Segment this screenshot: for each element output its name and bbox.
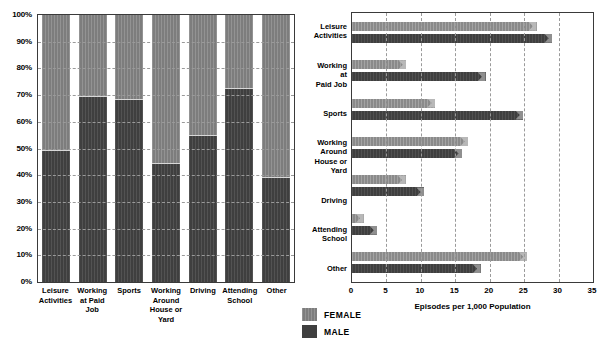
bar-male-track: [352, 187, 593, 196]
bar-female-body: [352, 22, 537, 31]
left-gridline: [38, 122, 294, 123]
left-x-label-line: Working: [74, 286, 111, 296]
left-x-label: Sports: [111, 286, 148, 324]
stacked-segment-male: [42, 151, 70, 282]
right-gridline: [490, 13, 491, 282]
left-y-tick: 50%: [17, 143, 32, 152]
stacked-segment-female: [189, 15, 217, 135]
left-gridline: [38, 95, 294, 96]
right-category-label: Other: [305, 264, 349, 274]
bar-female[interactable]: [352, 137, 468, 146]
left-gridline: [38, 229, 294, 230]
legend-item-male: MALE: [302, 325, 432, 338]
stacked-segment-female: [79, 15, 107, 96]
stacked-percent-chart: 0%10%20%30%40%50%60%70%80%90%100% Leisur…: [0, 0, 305, 355]
bar-female-body: [352, 137, 468, 146]
left-x-label: AttendingSchool: [221, 286, 258, 324]
left-x-label: Other: [258, 286, 295, 324]
bar-male[interactable]: [352, 187, 424, 196]
legend-label-male: MALE: [324, 327, 350, 337]
bar-male-track: [352, 264, 593, 273]
left-x-label-line: Working: [148, 286, 185, 296]
bar-male[interactable]: [352, 111, 523, 120]
right-category-label-line: at: [305, 70, 347, 80]
bar-female-track: [352, 60, 593, 69]
stacked-segment-female: [225, 15, 253, 88]
bar-female[interactable]: [352, 175, 406, 184]
right-category-label: LeisureActivities: [305, 22, 349, 41]
bar-male-body: [352, 111, 523, 120]
bar-female-track: [352, 214, 593, 223]
left-gridline: [38, 68, 294, 69]
left-x-label-line: Sports: [111, 286, 148, 296]
bar-group: [352, 175, 593, 196]
figure-root: 0%10%20%30%40%50%60%70%80%90%100% Leisur…: [0, 0, 605, 355]
bar-group: [352, 214, 593, 235]
stacked-segment-female: [42, 15, 70, 150]
bar-group: [352, 22, 593, 43]
bar-female[interactable]: [352, 99, 435, 108]
bar-male[interactable]: [352, 226, 377, 235]
right-gridline: [386, 13, 387, 282]
right-category-label-line: Sports: [305, 109, 347, 119]
bar-group: [352, 60, 593, 81]
right-category-label-line: Working: [305, 138, 347, 148]
legend-swatch-male: [302, 325, 317, 338]
bar-female[interactable]: [352, 60, 406, 69]
bar-male[interactable]: [352, 72, 486, 81]
left-y-tick: 70%: [17, 90, 32, 99]
bar-female-body: [352, 175, 406, 184]
bar-female[interactable]: [352, 22, 537, 31]
right-chart-category-labels: LeisureActivitiesWorkingatPaid JobSports…: [305, 12, 349, 283]
left-x-label-line: Leisure: [37, 286, 74, 296]
right-x-tick: 0: [349, 286, 353, 295]
right-category-label-line: House or: [305, 157, 347, 167]
bar-male-body: [352, 72, 486, 81]
right-category-label-line: Yard: [305, 166, 347, 176]
left-y-tick: 30%: [17, 196, 32, 205]
left-chart-plot-area: [37, 14, 295, 283]
bar-group: [352, 99, 593, 120]
left-gridline: [38, 255, 294, 256]
bar-male[interactable]: [352, 34, 552, 43]
right-gridline: [455, 13, 456, 282]
left-x-label: WorkingAroundHouse orYard: [148, 286, 185, 324]
bar-male-body: [352, 187, 424, 196]
bar-male-track: [352, 149, 593, 158]
bar-female-track: [352, 22, 593, 31]
right-category-label-line: Attending: [305, 225, 347, 235]
right-x-tick: 20: [484, 286, 493, 295]
right-chart-x-ticks: 05101520253035: [351, 286, 594, 298]
stacked-segment-female: [115, 15, 143, 99]
left-x-label-line: School: [221, 296, 258, 306]
left-x-label-line: Activities: [37, 296, 74, 306]
left-x-label: LeisureActivities: [37, 286, 74, 324]
bar-male[interactable]: [352, 149, 462, 158]
bar-male-track: [352, 226, 593, 235]
left-x-label-line: Attending: [221, 286, 258, 296]
right-category-label-line: Working: [305, 61, 347, 71]
bar-female-track: [352, 99, 593, 108]
bar-male-body: [352, 149, 462, 158]
right-category-label: WorkingAroundHouse orYard: [305, 138, 349, 176]
legend-swatch-female: [302, 308, 317, 321]
bar-male-body: [352, 264, 481, 273]
right-category-label: WorkingatPaid Job: [305, 61, 349, 90]
left-gridline: [38, 175, 294, 176]
bar-female[interactable]: [352, 214, 364, 223]
right-category-label-line: School: [305, 234, 347, 244]
stacked-segment-male: [189, 136, 217, 282]
bar-female-body: [352, 252, 527, 261]
bar-female-track: [352, 175, 593, 184]
bar-group: [352, 137, 593, 158]
bar-male[interactable]: [352, 264, 481, 273]
bar-male-track: [352, 34, 593, 43]
bar-female[interactable]: [352, 252, 527, 261]
right-gridline: [559, 13, 560, 282]
stacked-segment-male: [225, 89, 253, 282]
left-gridline: [38, 149, 294, 150]
right-gridline: [524, 13, 525, 282]
left-y-tick: 60%: [17, 116, 32, 125]
stacked-segment-male: [152, 164, 180, 282]
bar-female-body: [352, 99, 435, 108]
